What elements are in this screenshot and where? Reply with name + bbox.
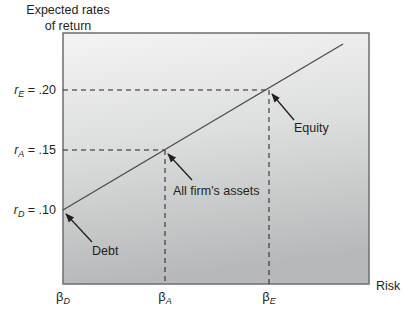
chart-canvas bbox=[0, 0, 410, 315]
y-axis-title-line-2: of return bbox=[4, 18, 132, 34]
x-tick-beta-d: βD bbox=[48, 290, 78, 308]
annotation-equity: Equity bbox=[294, 121, 329, 135]
annotation-all-firms-assets: All firm's assets bbox=[173, 184, 259, 198]
y-tick-ra: rA = .15 bbox=[0, 143, 56, 161]
x-axis-title: Risk bbox=[376, 279, 400, 293]
y-axis-title: Expected rates of return bbox=[4, 2, 132, 34]
x-tick-beta-a: βA bbox=[150, 290, 180, 308]
y-axis-title-line-1: Expected rates bbox=[4, 2, 132, 18]
y-tick-rd: rD = .10 bbox=[0, 203, 56, 221]
annotation-debt: Debt bbox=[92, 244, 118, 258]
x-tick-beta-e: βE bbox=[254, 290, 284, 308]
y-tick-re: rE = .20 bbox=[0, 83, 56, 101]
